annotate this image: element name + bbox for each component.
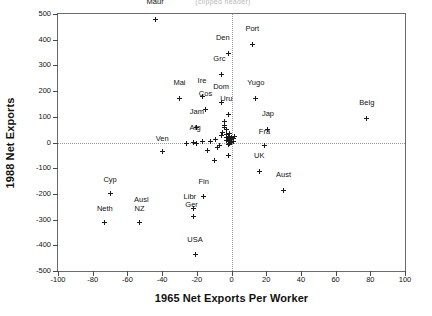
x-tick-label: -20 (191, 275, 202, 284)
data-point (250, 42, 255, 47)
y-tick-label: 300 (38, 61, 51, 69)
y-tick (53, 91, 58, 92)
data-point-label: Uru (220, 95, 232, 103)
data-point (253, 96, 258, 101)
data-point (160, 149, 165, 154)
y-tick-label: 0 (47, 139, 51, 147)
data-point (281, 188, 286, 193)
data-point-unlabeled (226, 153, 231, 158)
data-point (364, 116, 369, 121)
data-point (265, 127, 270, 132)
y-tick (53, 194, 58, 195)
data-point-label: NZ (135, 205, 145, 213)
y-tick-label: -500 (36, 267, 51, 275)
y-tick (53, 117, 58, 118)
data-point-label: Neth (97, 205, 113, 213)
data-point-unlabeled (212, 158, 217, 163)
data-point-unlabeled (224, 135, 229, 140)
y-tick-label: -300 (36, 216, 51, 224)
data-point (219, 72, 224, 77)
data-point-label: Dom (213, 83, 229, 91)
data-point-label: Ausl (134, 196, 149, 204)
data-point-label: Jam (190, 108, 204, 116)
data-point-label: Yugo (247, 79, 264, 87)
data-point (137, 220, 142, 225)
y-tick-label: -400 (36, 241, 51, 249)
data-point (219, 100, 224, 105)
data-point-unlabeled (222, 125, 227, 130)
data-point-unlabeled (205, 148, 210, 153)
data-point-label: Port (245, 25, 259, 33)
data-point (108, 191, 113, 196)
data-point-label: Jap (262, 110, 274, 118)
data-point-label: Cyp (103, 176, 116, 184)
y-axis-title-wrap: 1988 Net Exports (2, 13, 18, 272)
data-point (177, 96, 182, 101)
data-point (194, 125, 199, 130)
data-point-label: Cos (199, 90, 212, 98)
zero-line-vertical (232, 14, 233, 271)
data-point (257, 169, 262, 174)
data-point-label: Fin (199, 178, 209, 186)
data-point (203, 107, 208, 112)
data-point (226, 112, 231, 117)
data-point (201, 194, 206, 199)
data-point-label: Fra (259, 128, 270, 136)
y-tick (53, 65, 58, 66)
x-tick-label: 80 (366, 275, 374, 284)
data-point-unlabeled (232, 134, 237, 139)
data-point-label: Ire (198, 77, 207, 85)
data-point-unlabeled (226, 137, 231, 142)
y-axis-title: 1988 Net Exports (4, 97, 16, 188)
y-tick (53, 14, 58, 15)
y-tick (53, 143, 58, 144)
x-tick-label: 20 (262, 275, 270, 284)
y-tick-label: -100 (36, 164, 51, 172)
data-point-label: Ger (185, 201, 198, 209)
data-point-label: Grc (213, 55, 225, 63)
x-tick-label: -60 (122, 275, 133, 284)
data-point-unlabeled (226, 134, 231, 139)
data-point-label: Den (216, 34, 230, 42)
x-tick-label: -40 (157, 275, 168, 284)
data-point-label: Belg (359, 99, 374, 107)
data-point (191, 214, 196, 219)
data-point-unlabeled (222, 123, 227, 128)
figure-title: (clipped header) (168, 0, 278, 6)
x-tick-label: 100 (399, 275, 412, 284)
data-point-unlabeled (215, 145, 220, 150)
data-point (137, 220, 142, 225)
data-point-label: Afg (189, 124, 200, 132)
y-tick-label: 500 (38, 10, 51, 18)
data-point (102, 220, 107, 225)
data-point-label: USA (187, 236, 202, 244)
data-point-unlabeled (219, 133, 224, 138)
data-point-unlabeled (222, 119, 227, 124)
x-tick-label: -80 (87, 275, 98, 284)
y-tick (53, 220, 58, 221)
data-point-unlabeled (220, 130, 225, 135)
data-point-label: Maur (147, 0, 164, 6)
data-point (193, 252, 198, 257)
data-point-unlabeled (217, 143, 222, 148)
x-axis-title: 1965 Net Exports Per Worker (57, 292, 406, 304)
y-tick-label: 100 (38, 113, 51, 121)
x-tick-label: 60 (331, 275, 339, 284)
data-point (262, 143, 267, 148)
data-point-unlabeled (224, 132, 229, 137)
data-point-label: Aust (276, 171, 291, 179)
data-point-label: Libr (184, 193, 197, 201)
data-point-label: Mai (173, 79, 185, 87)
y-tick-label: 200 (38, 87, 51, 95)
data-point (226, 51, 231, 56)
data-point (191, 206, 196, 211)
y-tick (53, 245, 58, 246)
y-tick-label: 400 (38, 36, 51, 44)
x-tick-label: 0 (229, 275, 233, 284)
plot-area: -500-400-300-200-1000100200300400500 -10… (57, 13, 406, 272)
data-point (200, 94, 205, 99)
scatter-figure: (clipped header) -500-400-300-200-100010… (0, 0, 432, 316)
y-tick-label: -200 (36, 190, 51, 198)
y-tick (53, 168, 58, 169)
x-tick-label: 40 (297, 275, 305, 284)
